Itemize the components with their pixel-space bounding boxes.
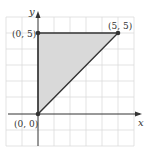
- coordinate-plane: y x (0, 5) (5, 5) (0, 0): [0, 0, 148, 149]
- vertex-top-left: [36, 31, 41, 36]
- vertex-label-top-right: (5, 5): [108, 21, 132, 31]
- y-axis-label: y: [28, 6, 35, 17]
- y-axis-arrow-icon: [36, 11, 41, 18]
- x-axis-arrow-icon: [135, 112, 142, 117]
- vertex-top-right: [116, 31, 121, 36]
- vertex-origin: [36, 112, 41, 117]
- vertex-label-origin: (0, 0): [14, 119, 38, 129]
- triangle-region: [38, 33, 118, 114]
- x-axis-label: x: [138, 117, 144, 128]
- vertex-label-top-left: (0, 5): [12, 29, 36, 39]
